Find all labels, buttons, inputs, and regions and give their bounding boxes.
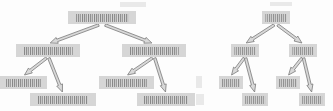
tree-node[interactable] (231, 44, 259, 57)
node-text-glyphs (130, 46, 179, 54)
scan-artifact (196, 94, 204, 105)
tree-node[interactable] (219, 76, 243, 89)
node-text-glyphs (106, 78, 148, 86)
tree-edge-arrow (244, 58, 255, 92)
tree-node[interactable] (137, 93, 195, 106)
tree-edge-arrow (128, 57, 153, 75)
tree-node[interactable] (30, 93, 96, 106)
tree-edge-arrow (289, 57, 304, 75)
tree-edge-arrow (153, 58, 166, 92)
node-text-glyphs (234, 46, 255, 54)
tree-edge-arrow (24, 57, 47, 75)
node-text-glyphs (6, 78, 42, 86)
tree-node[interactable] (16, 44, 80, 57)
tree-edge-arrow (277, 24, 302, 43)
scan-artifact (270, 2, 292, 6)
node-text-glyphs (144, 95, 188, 103)
node-text-glyphs (222, 78, 240, 86)
tree-node[interactable] (242, 93, 268, 106)
tree-node[interactable] (299, 93, 325, 106)
tree-node[interactable] (122, 44, 186, 57)
node-text-glyphs (38, 95, 88, 103)
node-text-glyphs (245, 95, 265, 103)
tree-edge-arrow (302, 58, 313, 92)
tree-edge-arrow (105, 24, 152, 43)
tree-edge-arrow (232, 57, 246, 75)
node-text-glyphs (302, 95, 322, 103)
tree-node[interactable] (289, 44, 317, 57)
tree-node[interactable] (0, 76, 47, 89)
scan-artifact (120, 2, 146, 7)
tree-edge-arrow (50, 24, 99, 44)
scan-artifact (196, 76, 202, 88)
node-text-glyphs (279, 78, 297, 86)
node-text-glyphs (76, 13, 128, 21)
node-text-glyphs (292, 46, 313, 54)
node-text-glyphs (265, 13, 286, 21)
tree-node[interactable] (68, 11, 136, 24)
diagram-canvas (0, 0, 333, 111)
tree-node[interactable] (262, 11, 290, 24)
tree-edge-arrow (48, 58, 63, 92)
tree-node[interactable] (276, 76, 300, 89)
tree-edge-arrow (246, 24, 275, 43)
tree-node[interactable] (99, 76, 154, 89)
node-text-glyphs (24, 46, 73, 54)
